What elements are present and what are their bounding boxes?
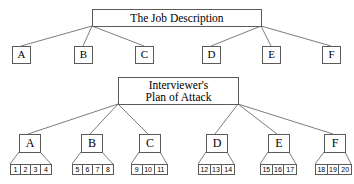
number-cell: 18 bbox=[316, 165, 328, 174]
edge-top-e bbox=[261, 26, 271, 46]
edge-bottom-b bbox=[90, 104, 118, 134]
number-strip-b: 5 6 7 8 bbox=[72, 164, 114, 175]
funnel-f-right bbox=[345, 152, 351, 164]
number-cell: 1 bbox=[11, 165, 21, 174]
top-node-b-label: B bbox=[80, 49, 87, 61]
number-cell: 4 bbox=[41, 165, 51, 174]
number-cell: 20 bbox=[339, 165, 351, 174]
funnel-f-left bbox=[315, 152, 324, 164]
edge-top-a bbox=[21, 26, 92, 46]
funnel-d-right bbox=[227, 152, 234, 164]
top-node-b: B bbox=[74, 46, 93, 64]
number-cell: 14 bbox=[222, 165, 234, 174]
number-strip-a: 1 2 3 4 bbox=[10, 164, 52, 175]
edge-bottom-e bbox=[238, 104, 277, 134]
funnel-d-left bbox=[198, 152, 206, 164]
top-node-a: A bbox=[12, 46, 31, 64]
funnel-c-right bbox=[160, 152, 167, 164]
number-cell: 3 bbox=[31, 165, 41, 174]
top-node-a-label: A bbox=[18, 49, 26, 61]
edge-top-d bbox=[211, 26, 261, 46]
number-cell: 5 bbox=[73, 165, 83, 174]
bottom-node-c: C bbox=[139, 134, 161, 153]
number-cell: 16 bbox=[273, 165, 285, 174]
number-cell: 2 bbox=[21, 165, 31, 174]
top-node-d: D bbox=[202, 46, 221, 64]
top-node-f: F bbox=[322, 46, 341, 64]
bottom-node-e-label: E bbox=[275, 137, 282, 150]
funnel-b-right bbox=[102, 152, 113, 164]
funnel-c-left bbox=[131, 152, 139, 164]
bottom-node-f: F bbox=[324, 134, 346, 153]
top-node-e: E bbox=[262, 46, 281, 64]
bottom-node-e: E bbox=[268, 134, 290, 153]
top-node-c: C bbox=[135, 46, 154, 64]
number-cell: 10 bbox=[143, 165, 155, 174]
edge-top-f bbox=[261, 26, 331, 46]
bottom-node-c-label: C bbox=[146, 137, 154, 150]
bottom-node-d-label: D bbox=[213, 137, 222, 150]
bottom-node-d: D bbox=[206, 134, 228, 153]
edge-bottom-c bbox=[118, 104, 148, 134]
edge-bottom-d bbox=[215, 104, 238, 134]
number-cell: 15 bbox=[261, 165, 273, 174]
edge-bottom-a bbox=[28, 104, 118, 134]
top-node-d-label: D bbox=[208, 49, 216, 61]
bottom-node-a-label: A bbox=[26, 137, 35, 150]
number-cell: 12 bbox=[199, 165, 211, 174]
number-strip-f: 18 19 20 bbox=[315, 164, 352, 175]
number-cell: 7 bbox=[93, 165, 103, 174]
number-strip-c: 9 10 11 bbox=[131, 164, 168, 175]
number-cell: 9 bbox=[132, 165, 143, 174]
number-cell: 8 bbox=[103, 165, 113, 174]
job-description-label: The Job Description bbox=[130, 12, 223, 24]
top-node-f-label: F bbox=[328, 49, 334, 61]
bottom-node-b-label: B bbox=[88, 137, 96, 150]
diagram-canvas: The Job Description A B C D E F Intervie… bbox=[0, 0, 354, 184]
job-description-box: The Job Description bbox=[92, 9, 262, 27]
funnel-b-left bbox=[72, 152, 81, 164]
bottom-node-b: B bbox=[81, 134, 103, 153]
number-cell: 13 bbox=[211, 165, 223, 174]
plan-of-attack-box: Interviewer's Plan of Attack bbox=[118, 77, 239, 105]
edge-bottom-f bbox=[238, 104, 333, 134]
number-strip-e: 15 16 17 bbox=[260, 164, 297, 175]
number-cell: 11 bbox=[155, 165, 167, 174]
number-cell: 6 bbox=[83, 165, 93, 174]
bottom-node-f-label: F bbox=[332, 137, 339, 150]
plan-of-attack-label-line1: Interviewer's bbox=[149, 79, 209, 91]
edge-top-c bbox=[92, 26, 144, 46]
edge-top-b bbox=[83, 26, 92, 46]
funnel-a-left bbox=[10, 152, 19, 164]
bottom-node-a: A bbox=[19, 134, 41, 153]
plan-of-attack-label-line2: Plan of Attack bbox=[146, 91, 212, 103]
number-cell: 17 bbox=[284, 165, 296, 174]
number-strip-d: 12 13 14 bbox=[198, 164, 235, 175]
top-node-c-label: C bbox=[141, 49, 148, 61]
funnel-e-right bbox=[289, 152, 296, 164]
funnel-a-right bbox=[40, 152, 51, 164]
funnel-e-left bbox=[260, 152, 268, 164]
number-cell: 19 bbox=[328, 165, 340, 174]
top-node-e-label: E bbox=[268, 49, 275, 61]
